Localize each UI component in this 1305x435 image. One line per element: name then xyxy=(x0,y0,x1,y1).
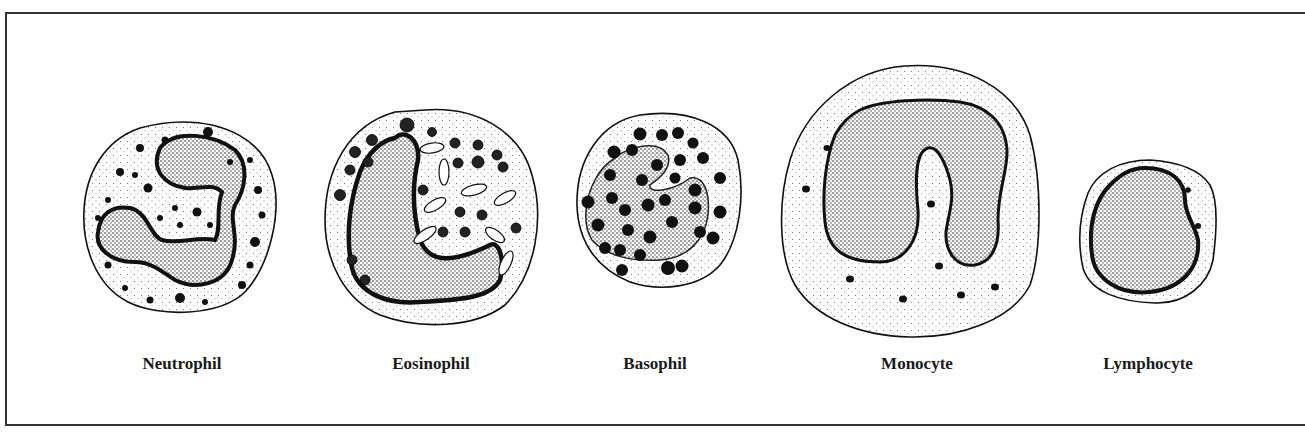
label-neutrophil: Neutrophil xyxy=(142,354,221,374)
lymphocyte-cell xyxy=(1080,160,1216,303)
neutrophil-cell xyxy=(84,122,276,312)
label-basophil: Basophil xyxy=(623,354,686,374)
eosinophil-cell xyxy=(325,110,538,325)
label-eosinophil: Eosinophil xyxy=(392,354,470,374)
label-monocyte: Monocyte xyxy=(881,354,953,374)
basophil-cell xyxy=(577,113,741,287)
monocyte-cell xyxy=(782,66,1039,337)
label-lymphocyte: Lymphocyte xyxy=(1103,354,1193,374)
